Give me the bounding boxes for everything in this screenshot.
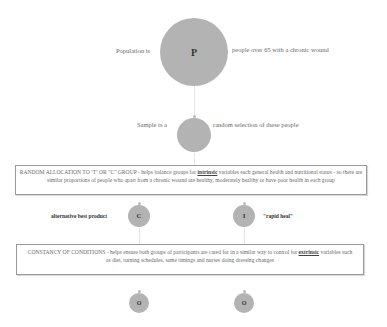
- extrinsic-keyword: extrinsic: [299, 249, 320, 255]
- constancy-of-conditions-box: CONSTANCY OF CONDITIONS - helps ensure b…: [16, 244, 364, 275]
- population-node: P: [160, 18, 228, 86]
- comparison-node: C: [128, 205, 150, 227]
- intervention-node-label: I: [243, 212, 246, 220]
- comparison-node-label: C: [136, 212, 141, 220]
- intervention-node: I: [233, 205, 255, 227]
- connector-p-to-sample: [194, 86, 195, 117]
- random-allocation-text-before: - helps balance groups for: [137, 169, 198, 175]
- intervention-label: "rapid heal": [263, 213, 293, 219]
- random-allocation-heading: RANDOM ALLOCATION TO "I" OR "C" GROUP: [20, 169, 137, 175]
- population-description: people over 65 with a chronic wound: [232, 46, 329, 53]
- comparison-label: alternative best product: [51, 213, 107, 219]
- sample-prefix-label: Sample is a: [137, 121, 167, 128]
- connector-c-down: [139, 228, 140, 244]
- population-node-label: P: [191, 47, 197, 58]
- sample-description: random selection of these people: [213, 121, 299, 128]
- sample-node: [177, 118, 211, 152]
- intrinsic-keyword: intrinsic: [197, 169, 217, 175]
- population-prefix-label: Population is: [116, 47, 150, 54]
- connector-sample-to-box: [194, 153, 195, 165]
- outcome-node-comparison: O: [129, 293, 149, 313]
- constancy-heading: CONSTANCY OF CONDITIONS: [28, 249, 106, 255]
- random-allocation-box: RANDOM ALLOCATION TO "I" OR "C" GROUP - …: [15, 165, 367, 195]
- connector-i-down: [244, 228, 245, 244]
- constancy-text-before: - helps ensure both groups of participan…: [105, 249, 298, 255]
- outcome-node-label: O: [137, 300, 142, 306]
- outcome-node-intervention: O: [234, 293, 254, 313]
- outcome-node-label: O: [242, 300, 247, 306]
